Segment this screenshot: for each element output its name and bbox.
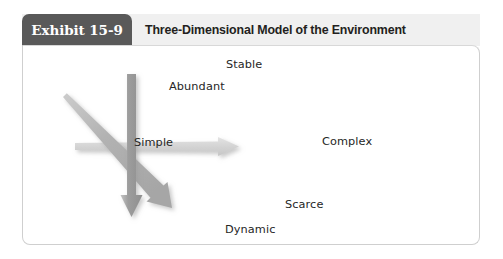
- three-dimensional-environment-diagram: Stable Abundant Simple Complex Scarce Dy…: [22, 45, 480, 245]
- exhibit-title: Three-Dimensional Model of the Environme…: [145, 14, 406, 46]
- axis-label-abundant: Abundant: [169, 80, 225, 93]
- axis-label-simple: Simple: [134, 136, 173, 149]
- axes-arrows-graphic: [22, 45, 480, 245]
- axis-label-scarce: Scarce: [285, 198, 323, 211]
- axis-label-dynamic: Dynamic: [225, 223, 276, 236]
- exhibit-number-badge: Exhibit 15-9: [22, 14, 132, 46]
- axis-label-complex: Complex: [322, 135, 372, 148]
- axis-label-stable: Stable: [226, 58, 262, 71]
- exhibit-number-label: Exhibit 15-9: [31, 22, 122, 38]
- exhibit-card: Exhibit 15-9 Three-Dimensional Model of …: [0, 0, 503, 259]
